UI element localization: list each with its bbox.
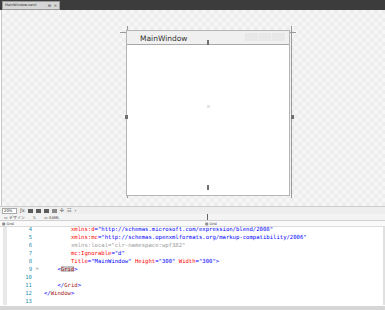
center-marker: [207, 105, 210, 108]
more-chevron-icon[interactable]: ‹: [74, 208, 76, 213]
code-text: xmlns:mc="http://schemas.openxmlformats.…: [44, 233, 307, 241]
artboard-icon[interactable]: [44, 209, 49, 213]
code-text: </Window>: [44, 289, 74, 297]
line-number: 13: [10, 297, 32, 305]
wpf-window-preview[interactable]: MainWindow: [126, 30, 290, 196]
effects-icon[interactable]: ✣: [60, 208, 64, 213]
code-line[interactable]: 9⊟ <Grid>: [0, 265, 385, 273]
line-number: 10: [10, 273, 32, 281]
pane-splitter[interactable]: [207, 214, 208, 220]
code-line[interactable]: 5 xmlns:mc="http://schemas.openxmlformat…: [0, 233, 385, 241]
tab-design[interactable]: ▭ デザイン: [0, 214, 29, 221]
close-icon[interactable]: ✕: [54, 2, 57, 9]
line-number: 7: [10, 249, 32, 257]
right-guide-line: [291, 26, 292, 198]
line-number: 11: [10, 281, 32, 289]
xaml-code-editor[interactable]: 4 xmlns:d="http://schemas.microsoft.com/…: [0, 227, 385, 310]
fold-toggle-icon[interactable]: ⊟: [36, 265, 38, 273]
snap-grid-icon[interactable]: [36, 209, 41, 213]
rulers-icon[interactable]: ☷: [67, 208, 71, 213]
code-text: xmlns:local="clr-namespace:wpf382": [44, 241, 185, 249]
editor-bottom-border: [0, 306, 385, 310]
document-tab-strip: MainWindow.xaml ⊞ ✕: [0, 0, 385, 10]
line-number: 6: [10, 241, 32, 249]
code-line[interactable]: 13: [0, 297, 385, 305]
maximize-icon: [259, 33, 272, 41]
line-number: 4: [10, 225, 32, 233]
grid-client-area[interactable]: [127, 45, 289, 195]
grid-icon[interactable]: [28, 209, 33, 213]
caption-buttons: [245, 33, 285, 41]
resize-handle-bottom[interactable]: [207, 185, 209, 190]
code-line[interactable]: 8 Title="MainWindow" Height="300" Width=…: [0, 257, 385, 265]
snap-lines-icon[interactable]: [52, 209, 57, 213]
line-number: 9: [10, 265, 32, 273]
code-text: xmlns:d="http://schemas.microsoft.com/ex…: [44, 225, 273, 233]
xaml-designer-surface[interactable]: MainWindow: [1, 10, 385, 206]
code-line[interactable]: 6 xmlns:local="clr-namespace:wpf382": [0, 241, 385, 249]
code-line[interactable]: 7 mc:Ignorable="d": [0, 249, 385, 257]
line-number: 8: [10, 257, 32, 265]
line-number: 5: [10, 233, 32, 241]
code-text: <Grid>: [44, 265, 78, 273]
resize-handle-top[interactable]: [207, 40, 209, 45]
document-tab-mainwindow[interactable]: MainWindow.xaml ⊞ ✕: [2, 1, 60, 10]
fx-icon[interactable]: ƒx: [20, 208, 25, 213]
code-line[interactable]: 11 </Grid>: [0, 281, 385, 289]
code-text: mc:Ignorable="d": [44, 249, 125, 257]
close-window-icon: [272, 33, 285, 41]
zoom-level: 20%: [4, 208, 12, 213]
code-text: </Grid>: [44, 281, 81, 289]
window-title: MainWindow: [140, 34, 187, 43]
view-tabs: ▭ デザイン ⇅ ▭ XAML: [0, 214, 385, 221]
pin-icon[interactable]: ⊞: [48, 2, 51, 9]
code-line[interactable]: 10: [0, 273, 385, 281]
document-tab-label: MainWindow.xaml: [5, 3, 37, 7]
line-number: 12: [10, 289, 32, 297]
resize-handle-left[interactable]: [125, 115, 128, 119]
code-line[interactable]: 12</Window>: [0, 289, 385, 297]
code-text: Title="MainWindow" Height="300" Width="3…: [44, 257, 219, 265]
tab-xaml[interactable]: ▭ XAML: [40, 214, 63, 221]
code-line[interactable]: 4 xmlns:d="http://schemas.microsoft.com/…: [0, 225, 385, 233]
minimize-icon: [245, 33, 258, 41]
swap-panes-icon[interactable]: ⇅: [29, 214, 40, 221]
resize-handle-right[interactable]: [291, 115, 294, 119]
